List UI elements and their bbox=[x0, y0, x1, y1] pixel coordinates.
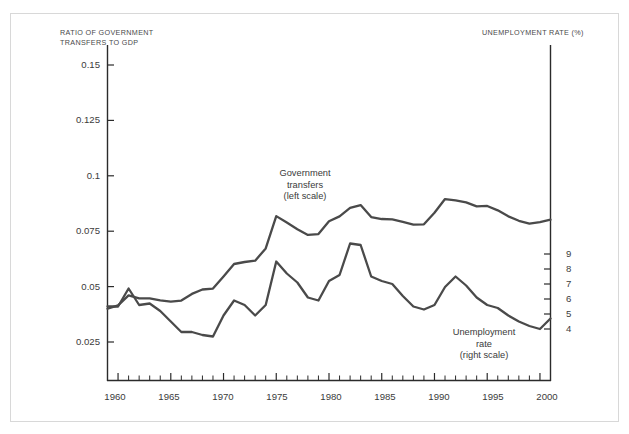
axis-lines bbox=[107, 45, 551, 381]
y-ticks-left bbox=[108, 65, 115, 342]
x-ticks bbox=[118, 373, 550, 381]
series-line-unemployment bbox=[108, 244, 551, 337]
chart-plot-area bbox=[0, 0, 629, 434]
series-line-transfers bbox=[108, 199, 551, 309]
y-ticks-right bbox=[544, 254, 551, 329]
chart-figure: RATIO OF GOVERNMENT TRANSFERS TO GDP UNE… bbox=[0, 0, 629, 434]
